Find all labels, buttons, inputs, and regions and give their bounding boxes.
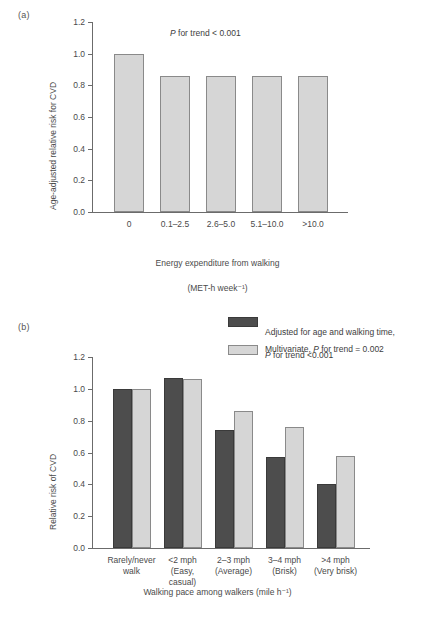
plot-area-b: 0.00.20.40.60.81.01.2 Rarely/never walk<… bbox=[92, 357, 370, 548]
bar bbox=[160, 76, 190, 212]
bar bbox=[234, 411, 253, 548]
y-tick-label: 0.2 bbox=[59, 176, 85, 185]
y-tick-mark bbox=[88, 54, 92, 55]
legend-label-multivariate: Multivariate, P for trend = 0.002 bbox=[265, 344, 384, 355]
x-tick-label: >10.0 bbox=[283, 219, 343, 230]
plot-area-a: 0.00.20.40.60.81.01.2 00.1–2.52.6–5.05.1… bbox=[92, 22, 348, 212]
y-axis-title-b: Relative risk of CVD bbox=[48, 454, 58, 530]
bar bbox=[164, 378, 183, 548]
legend-label-multivariate-rest: for trend = 0.002 bbox=[319, 344, 384, 354]
y-tick-mark bbox=[88, 548, 92, 549]
bar bbox=[114, 54, 144, 212]
y-tick-mark bbox=[88, 357, 92, 358]
y-tick-label: 0.4 bbox=[59, 145, 85, 154]
y-tick-mark bbox=[88, 22, 92, 23]
y-tick-mark bbox=[88, 453, 92, 454]
p-rest-a: for trend < 0.001 bbox=[176, 28, 241, 38]
y-tick-mark bbox=[88, 484, 92, 485]
y-tick-mark bbox=[88, 421, 92, 422]
p-for-trend-annotation-a: P for trend < 0.001 bbox=[170, 28, 241, 38]
figure-caption-partial bbox=[6, 609, 246, 617]
y-tick-label: 0.0 bbox=[59, 208, 85, 217]
chart-panel-b: (b) Adjusted for age and walking time, P… bbox=[0, 300, 435, 618]
y-tick-mark bbox=[88, 180, 92, 181]
panel-a-label: (a) bbox=[18, 10, 30, 20]
y-tick-label: 0.6 bbox=[59, 449, 85, 458]
x-axis-title-a-line1: Energy expenditure from walking bbox=[0, 257, 435, 269]
y-tick-label: 0.4 bbox=[59, 480, 85, 489]
y-axis-title-a: Age-adjusted relative risk for CVD bbox=[48, 82, 58, 210]
y-tick-label: 1.2 bbox=[59, 18, 85, 27]
y-tick-mark bbox=[88, 117, 92, 118]
x-axis-line-b bbox=[92, 548, 370, 549]
legend-swatch-light bbox=[228, 345, 258, 355]
bar bbox=[113, 389, 132, 548]
bar bbox=[266, 457, 285, 548]
y-tick-label: 0.0 bbox=[59, 544, 85, 553]
y-tick-mark bbox=[88, 149, 92, 150]
bar bbox=[317, 484, 336, 548]
bar bbox=[336, 456, 355, 548]
legend-label-adjusted-line1: Adjusted for age and walking time, bbox=[265, 327, 395, 337]
y-tick-mark bbox=[88, 516, 92, 517]
legend-swatch-dark bbox=[228, 317, 258, 327]
x-axis-title-b: Walking pace among walkers (mile h⁻¹) bbox=[0, 586, 435, 598]
bar bbox=[252, 76, 282, 212]
y-tick-mark bbox=[88, 212, 92, 213]
bar bbox=[206, 76, 236, 212]
bar bbox=[298, 76, 328, 212]
y-tick-label: 0.2 bbox=[59, 512, 85, 521]
legend-label-multivariate-prefix: Multivariate, bbox=[265, 344, 313, 354]
y-tick-label: 1.2 bbox=[59, 353, 85, 362]
x-tick-label: >4 mph (Very brisk) bbox=[305, 555, 367, 577]
x-axis-title-a-line2: (MET-h week⁻¹) bbox=[0, 282, 435, 294]
y-tick-mark bbox=[88, 85, 92, 86]
bar bbox=[215, 430, 234, 548]
y-tick-label: 0.8 bbox=[59, 417, 85, 426]
y-axis-line-b bbox=[92, 357, 93, 549]
x-axis-line-a bbox=[92, 212, 348, 213]
bar bbox=[285, 427, 304, 548]
y-tick-mark bbox=[88, 389, 92, 390]
bar bbox=[132, 389, 151, 548]
x-axis-title-a: Energy expenditure from walking (MET-h w… bbox=[0, 245, 435, 307]
y-tick-label: 0.6 bbox=[59, 113, 85, 122]
y-tick-label: 1.0 bbox=[59, 385, 85, 394]
legend-item-multivariate[interactable]: Multivariate, P for trend = 0.002 bbox=[228, 344, 384, 355]
y-tick-label: 0.8 bbox=[59, 81, 85, 90]
panel-b-label: (b) bbox=[18, 322, 30, 332]
bar bbox=[183, 379, 202, 548]
y-tick-label: 1.0 bbox=[59, 50, 85, 59]
chart-panel-a: (a) 0.00.20.40.60.81.01.2 00.1–2.52.6–5.… bbox=[0, 0, 435, 300]
y-axis-line-a bbox=[92, 22, 93, 213]
